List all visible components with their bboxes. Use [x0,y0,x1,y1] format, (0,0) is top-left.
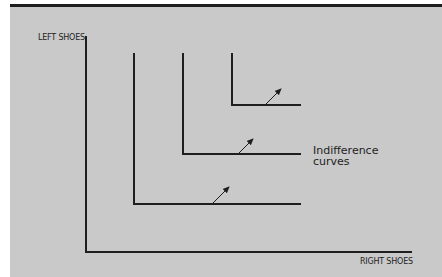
preference-arrow-2 [238,139,253,154]
x-axis-label: RIGHT SHOES [360,257,413,266]
curves-annotation: Indifference curves [313,145,378,167]
preference-arrow-1 [212,187,229,204]
indifference-curve-1 [134,53,301,204]
indifference-curve-3 [232,53,301,105]
preference-arrow-3 [265,89,281,105]
curves-annotation-line2: curves [313,156,378,167]
y-axis-label: LEFT SHOES [38,33,85,42]
indifference-curve-2 [183,53,301,154]
